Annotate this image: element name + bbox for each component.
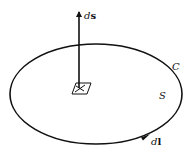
label-c: C [172,61,180,72]
area-element [72,83,91,94]
label-ds: ds [84,10,96,21]
curve-c [10,44,182,144]
diagram-canvas: ds C S dl [0,0,193,152]
label-s: S [159,90,166,101]
label-dl: dl [151,136,161,147]
